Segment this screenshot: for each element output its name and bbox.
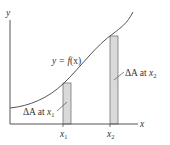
annotation-x2: ΔA at x2 — [125, 68, 157, 79]
strip-x1 — [63, 83, 71, 124]
annotation-x1: ΔA at x1 — [23, 107, 55, 118]
annotation-x1-sub: 1 — [51, 111, 54, 118]
tick-label-x1: x1 — [59, 129, 67, 140]
x-axis-label: x — [139, 119, 145, 129]
area-strip-diagram: y x y = f(x) x1 x2 ΔA at x1 ΔA at x2 — [0, 0, 170, 145]
curve-label-arg: (x) — [70, 56, 81, 67]
tick-label-x2: x2 — [106, 129, 114, 140]
tick-x2-sub: 2 — [111, 133, 114, 140]
annotation-x1-prefix: ΔA at — [23, 107, 47, 117]
y-axis-label: y — [5, 8, 11, 18]
annotation-x2-sub: 2 — [153, 72, 156, 79]
tick-x1-sub: 1 — [64, 133, 67, 140]
annotation-x2-prefix: ΔA at — [125, 68, 149, 78]
curve-label-prefix: y = — [51, 56, 67, 66]
curve-label: y = f(x) — [51, 56, 81, 67]
